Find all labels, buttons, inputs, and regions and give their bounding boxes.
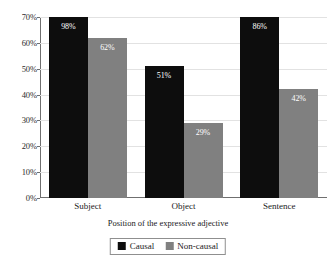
bar-value-label: 86%: [240, 22, 279, 31]
y-axis-tick-label: 50%: [1, 64, 37, 73]
bar-value-label: 42%: [279, 94, 318, 103]
y-axis-tick-label: 10%: [1, 168, 37, 177]
bar[interactable]: 29%: [184, 123, 223, 198]
legend-label: Causal: [130, 241, 155, 251]
bar[interactable]: 42%: [279, 89, 318, 198]
y-axis-tick-label: 40%: [1, 90, 37, 99]
y-axis: 70%60%50%40%30%20%10%0%: [0, 17, 37, 198]
bar-value-label: 62%: [88, 43, 127, 52]
bar[interactable]: 51%: [145, 66, 184, 198]
legend-label: Non-causal: [177, 241, 218, 251]
bar-slot: 62%: [88, 17, 127, 198]
bar[interactable]: 98%: [49, 17, 88, 198]
legend-swatch-icon: [118, 242, 126, 250]
y-axis-tick-label: 20%: [1, 142, 37, 151]
x-axis-category-label: Object: [136, 201, 232, 212]
bar[interactable]: 62%: [88, 38, 127, 198]
y-axis-tick-label: 60%: [1, 38, 37, 47]
bar-groups: 98%62%51%29%86%42%: [40, 17, 327, 198]
bar-slot: 98%: [49, 17, 88, 198]
bar[interactable]: 86%: [240, 17, 279, 198]
x-axis-categories: SubjectObjectSentence: [40, 201, 327, 212]
x-axis-title: Position of the expressive adjective: [0, 218, 336, 228]
plot-area: 98%62%51%29%86%42%: [40, 17, 327, 198]
legend-swatch-icon: [165, 242, 173, 250]
bar-group: 51%29%: [136, 17, 232, 198]
bar-value-label: 51%: [145, 71, 184, 80]
x-axis-category-label: Subject: [40, 201, 136, 212]
y-axis-tick-label: 30%: [1, 116, 37, 125]
bar-slot: 29%: [184, 17, 223, 198]
legend-item[interactable]: Non-causal: [165, 241, 218, 251]
bar-group: 98%62%: [40, 17, 136, 198]
bar-slot: 42%: [279, 17, 318, 198]
y-axis-tick-mark: [37, 198, 40, 199]
x-axis-category-label: Sentence: [231, 201, 327, 212]
legend-item[interactable]: Causal: [118, 241, 155, 251]
bar-chart: 70%60%50%40%30%20%10%0% 98%62%51%29%86%4…: [0, 0, 336, 266]
y-axis-tick-label: 0%: [1, 194, 37, 203]
bar-slot: 86%: [240, 17, 279, 198]
bar-value-label: 29%: [184, 128, 223, 137]
bar-value-label: 98%: [49, 22, 88, 31]
bar-slot: 51%: [145, 17, 184, 198]
chart-legend: CausalNon-causal: [110, 238, 226, 255]
y-axis-tick-label: 70%: [1, 13, 37, 22]
bar-group: 86%42%: [231, 17, 327, 198]
